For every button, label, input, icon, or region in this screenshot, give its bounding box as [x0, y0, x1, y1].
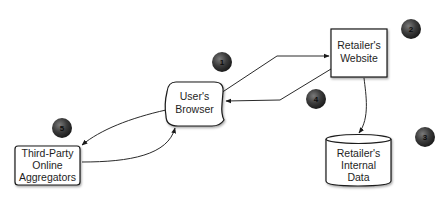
website-label-line-2: Website [340, 52, 378, 64]
browser-label-line-2: Browser [175, 103, 214, 115]
edges [82, 56, 366, 162]
edge-browser-to-website [221, 56, 329, 93]
internal-data-label-line-3: Data [347, 171, 369, 183]
data-flow-diagram: User's Browser Retailer's Website Retail… [0, 0, 438, 199]
badge-2: 2 [401, 19, 421, 39]
badge-3: 3 [415, 127, 435, 147]
internal-data-label-line-2: Internal [341, 159, 376, 171]
aggregators-label-line-3: Aggregators [19, 171, 76, 183]
badge-3-number: 3 [423, 133, 428, 142]
aggregators-label-line-2: Online [32, 159, 63, 171]
badge-4: 4 [306, 89, 326, 109]
badge-5: 5 [52, 118, 72, 138]
badge-1: 1 [212, 52, 232, 72]
browser-label-line-1: User's [180, 90, 209, 102]
edge-website-to-internal-data [359, 78, 366, 133]
internal-data-cylinder-top [326, 135, 391, 144]
badge-4-number: 4 [314, 95, 319, 104]
website-label-line-1: Retailer's [337, 39, 380, 51]
edge-browser-to-aggregators [82, 110, 166, 145]
badge-5-number: 5 [60, 124, 65, 133]
internal-data-label-line-1: Retailer's [337, 147, 380, 159]
aggregators-label-line-1: Third-Party [22, 147, 75, 159]
badge-2-number: 2 [409, 25, 414, 34]
badge-1-number: 1 [220, 58, 225, 67]
edge-aggregators-to-browser [82, 128, 175, 162]
